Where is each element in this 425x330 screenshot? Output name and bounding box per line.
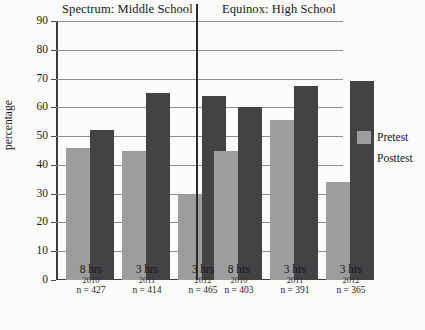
gridline: [56, 50, 343, 51]
y-axis-title: percentage: [2, 100, 14, 150]
legend-swatch-posttest: [357, 152, 371, 165]
panel-title-equinox: Equinox: High School: [222, 2, 336, 17]
y-axis-tick-label: 40: [37, 159, 49, 171]
bar-chart-figure: Spectrum: Middle School Equinox: High Sc…: [0, 0, 425, 330]
y-axis-tick-label: 10: [37, 245, 49, 257]
y-axis-tick-label: 70: [37, 73, 49, 85]
gridline: [56, 21, 343, 22]
plot-area: 9080706050403020100: [56, 21, 343, 280]
y-axis-tick: [51, 21, 56, 22]
bar-pretest: [270, 120, 294, 280]
category-year: 2012: [316, 276, 386, 286]
legend-label: Posttest: [377, 152, 413, 164]
y-axis-tick-label: 30: [37, 188, 49, 200]
bar-posttest: [146, 93, 170, 280]
legend-label: Pretest: [377, 131, 408, 143]
y-axis-tick-label: 20: [37, 217, 49, 229]
legend-item-posttest: Posttest: [357, 149, 413, 167]
y-axis-tick: [51, 50, 56, 51]
y-axis-tick-label: 90: [37, 15, 49, 27]
panel-divider: [196, 4, 198, 280]
y-axis-tick: [51, 165, 56, 166]
bar-posttest: [90, 130, 114, 280]
y-axis-tick: [51, 194, 56, 195]
category-sample-size: n = 365: [316, 285, 386, 296]
legend-item-pretest: Pretest: [357, 128, 413, 146]
bar-pretest: [214, 151, 238, 281]
y-axis-line: [56, 21, 58, 280]
y-axis-tick: [51, 107, 56, 108]
y-axis-tick-label: 60: [37, 102, 49, 114]
y-axis-tick: [51, 251, 56, 252]
y-axis-tick: [51, 79, 56, 80]
category-hours: 3 hrs: [316, 263, 386, 276]
y-axis-tick-label: 80: [37, 44, 49, 56]
y-axis-tick: [51, 222, 56, 223]
gridline: [56, 79, 343, 80]
legend-swatch-pretest: [357, 131, 371, 144]
y-axis-tick: [51, 136, 56, 137]
bar-posttest: [294, 86, 318, 280]
bar-posttest: [238, 107, 262, 280]
bar-posttest: [350, 81, 374, 280]
x-axis-category: 3 hrs2012n = 365: [316, 263, 386, 296]
chart-legend: PretestPosttest: [357, 128, 413, 170]
bar-pretest: [66, 148, 90, 280]
y-axis-tick-label: 0: [42, 274, 48, 286]
bar-pretest: [122, 151, 146, 281]
panel-title-spectrum: Spectrum: Middle School: [62, 2, 193, 17]
y-axis-tick-label: 50: [37, 130, 49, 142]
